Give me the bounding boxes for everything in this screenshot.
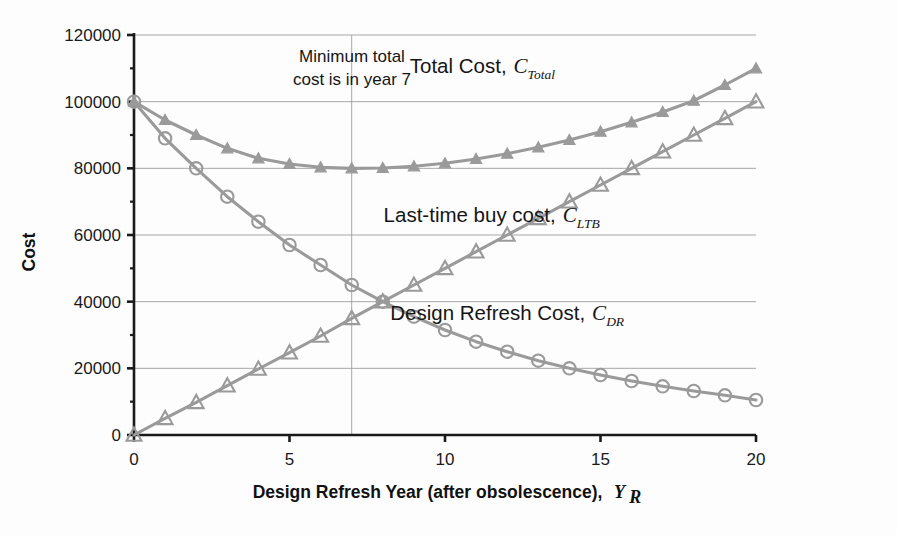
series-label-symbol: C (592, 301, 607, 325)
series-label-subscript: LTB (576, 216, 600, 231)
series-label-text: Design Refresh Cost, (390, 301, 585, 324)
chart-figure: 020000400006000080000100000120000 051015… (0, 0, 897, 535)
y-tick-label: 0 (112, 426, 121, 445)
x-tick-label: 0 (129, 450, 138, 469)
y-tick-label: 80000 (74, 159, 121, 178)
cost-vs-design-refresh-year-chart: 020000400006000080000100000120000 051015… (0, 0, 897, 535)
y-tick-label: 100000 (64, 93, 121, 112)
series-label-text: Total Cost, (410, 54, 507, 77)
series-label-symbol: C (514, 54, 529, 78)
minimum-cost-annotation-line1: Minimum total (299, 47, 405, 66)
series-label-text: Last-time buy cost, (384, 203, 556, 226)
y-axis-title: Cost (19, 232, 39, 271)
x-tick-label: 5 (285, 450, 294, 469)
y-tick-label: 40000 (74, 293, 121, 312)
series-label-subscript: DR (605, 314, 625, 329)
series-label-subscript: Total (528, 67, 556, 82)
series-label-symbol: C (563, 203, 578, 227)
x-axis-title-text: Design Refresh Year (after obsolescence)… (253, 482, 603, 502)
minimum-cost-annotation-line2: cost is in year 7 (293, 70, 411, 89)
x-axis-title-symbol: Y (614, 482, 627, 502)
x-tick-label: 10 (436, 450, 455, 469)
y-tick-label: 20000 (74, 359, 121, 378)
x-tick-label: 20 (747, 450, 766, 469)
y-tick-label: 120000 (64, 26, 121, 45)
x-axis-title-symbol-subscript: R (628, 487, 641, 507)
y-tick-label: 60000 (74, 226, 121, 245)
x-tick-label: 15 (591, 450, 610, 469)
